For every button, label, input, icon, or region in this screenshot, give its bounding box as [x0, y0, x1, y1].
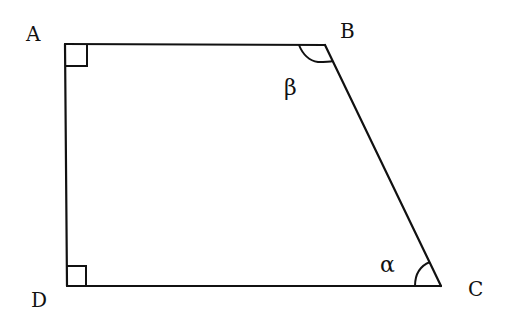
vertex-label-b: B	[340, 19, 355, 43]
edge-bc	[325, 45, 441, 286]
trapezoid-diagram: A B C D β α	[0, 0, 507, 331]
edge-ab	[65, 44, 325, 45]
angle-label-alpha: α	[380, 252, 395, 277]
vertex-label-d: D	[31, 288, 47, 312]
vertex-label-c: C	[468, 277, 483, 301]
right-angle-mark-a	[65, 44, 87, 66]
right-angle-mark-d	[67, 266, 86, 286]
angle-arc-alpha	[415, 262, 430, 286]
angle-label-beta: β	[284, 75, 297, 100]
vertex-label-a: A	[25, 22, 41, 46]
edge-da	[65, 44, 67, 286]
